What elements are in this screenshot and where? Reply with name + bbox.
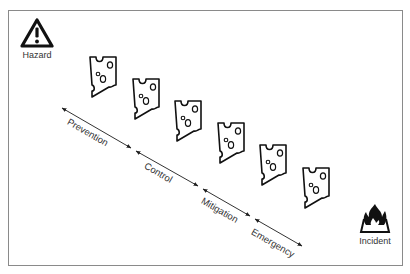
cheese-slice-1 bbox=[88, 54, 118, 100]
cheese-slice-5 bbox=[258, 142, 288, 188]
cheese-slice-3 bbox=[173, 98, 203, 144]
cheese-slice-4 bbox=[216, 120, 246, 166]
cheese-slice-2 bbox=[131, 76, 161, 122]
stages-arrow bbox=[0, 0, 410, 274]
cheese-slice-6 bbox=[301, 165, 331, 211]
